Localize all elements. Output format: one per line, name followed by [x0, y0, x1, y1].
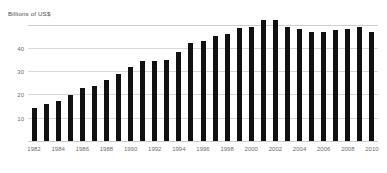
bar: [345, 29, 350, 142]
x-tick-label-1992: 1992: [148, 146, 161, 152]
bar: [80, 88, 85, 142]
y-tick-label-30: 30: [17, 69, 24, 75]
bar: [225, 34, 230, 142]
bar: [32, 108, 37, 142]
bar: [92, 86, 97, 142]
x-tick-label-2000: 2000: [245, 146, 258, 152]
bar: [309, 32, 314, 142]
x-tick-label-1998: 1998: [220, 146, 233, 152]
y-tick-label-40: 40: [17, 46, 24, 52]
bar-chart: Billions of US$ 10203040 198219841986198…: [0, 0, 387, 173]
y-tick-label-20: 20: [17, 92, 24, 98]
bar: [369, 32, 374, 142]
x-tick-label-2010: 2010: [365, 146, 378, 152]
x-tick-label-1994: 1994: [172, 146, 185, 152]
bar: [285, 27, 290, 142]
x-tick-label-2002: 2002: [269, 146, 282, 152]
bar: [357, 27, 362, 142]
x-tick-label-1988: 1988: [100, 146, 113, 152]
plot-area: 10203040: [28, 14, 378, 142]
bar: [297, 29, 302, 142]
bar: [237, 28, 242, 142]
bar: [68, 95, 73, 142]
bar: [321, 32, 326, 142]
bar: [213, 36, 218, 142]
x-tick-label-1996: 1996: [196, 146, 209, 152]
x-tick-label-1984: 1984: [51, 146, 64, 152]
bar: [201, 41, 206, 142]
x-tick-label-1990: 1990: [124, 146, 137, 152]
bar: [261, 20, 266, 142]
bar: [333, 30, 338, 142]
bar: [140, 61, 145, 142]
bar: [128, 67, 133, 142]
x-tick-label-2004: 2004: [293, 146, 306, 152]
bar: [152, 61, 157, 142]
bar: [164, 60, 169, 142]
y-tick-label-10: 10: [17, 116, 24, 122]
x-tick-label-2006: 2006: [317, 146, 330, 152]
bar: [116, 74, 121, 142]
x-tick-label-1986: 1986: [76, 146, 89, 152]
bar: [249, 27, 254, 142]
bar: [44, 104, 49, 142]
bar: [56, 101, 61, 142]
bar: [176, 52, 181, 142]
x-tick-label-1982: 1982: [27, 146, 40, 152]
x-tick-label-2008: 2008: [341, 146, 354, 152]
bar: [188, 43, 193, 142]
bar: [273, 20, 278, 142]
bars-group: [28, 14, 378, 142]
bar: [104, 80, 109, 142]
x-axis-baseline: [28, 141, 378, 142]
x-axis-labels: 1982198419861988199019921994199619982000…: [28, 146, 378, 166]
